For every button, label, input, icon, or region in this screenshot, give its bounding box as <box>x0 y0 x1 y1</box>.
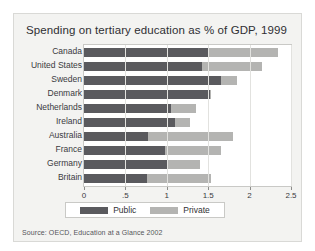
bar-row <box>84 160 200 169</box>
x-axis-tick-label: 2.5 <box>285 191 296 200</box>
bar-segment-private <box>168 160 199 169</box>
bar-segment-private <box>202 62 262 71</box>
x-axis-tick <box>250 187 251 190</box>
category-label: United States <box>18 61 82 70</box>
bar-row <box>84 62 262 71</box>
bar-segment-public <box>84 174 147 183</box>
x-axis-tick-label: 2 <box>247 191 251 200</box>
x-axis-tick-label: 0 <box>82 191 86 200</box>
gridline <box>291 45 292 186</box>
source-note: Source: OECD, Education at a Glance 2002 <box>22 229 163 236</box>
bar-row <box>84 174 211 183</box>
scan-clipped-header <box>0 0 315 11</box>
legend-swatch-public <box>80 207 108 214</box>
category-label: Canada <box>18 47 82 56</box>
x-axis-tick <box>125 187 126 190</box>
gridline <box>250 45 251 186</box>
legend-item-public: Public <box>80 205 136 215</box>
legend-label-public: Public <box>113 205 136 215</box>
bar-row <box>84 118 190 127</box>
legend-swatch-private <box>150 207 178 214</box>
category-label: Australia <box>18 131 82 140</box>
bar-segment-private <box>221 76 238 85</box>
bar-segment-public <box>84 104 171 113</box>
bar-segment-public <box>84 62 202 71</box>
x-axis-tick <box>291 187 292 190</box>
bar-segment-private <box>147 174 211 183</box>
bar-row <box>84 76 237 85</box>
chart-title: Spending on tertiary education as % of G… <box>26 24 287 36</box>
gridline <box>208 45 209 186</box>
category-axis: CanadaUnited StatesSwedenDenmarkNetherla… <box>14 44 82 187</box>
bar-segment-public <box>84 118 175 127</box>
category-label: Sweden <box>18 75 82 84</box>
bar-row <box>84 104 196 113</box>
bar-segment-private <box>208 48 278 57</box>
x-axis-tick-label: 1 <box>165 191 169 200</box>
category-label: Britain <box>18 173 82 182</box>
x-axis-tick <box>167 187 168 190</box>
bar-segment-private <box>175 118 190 127</box>
chart-figure: Spending on tertiary education as % of G… <box>13 13 302 242</box>
bar-segment-private <box>148 132 233 141</box>
bar-segment-public <box>84 48 208 57</box>
category-label: Denmark <box>18 89 82 98</box>
x-axis-tick <box>84 187 85 190</box>
bar-row <box>84 132 233 141</box>
category-label: Ireland <box>18 117 82 126</box>
x-axis-tick-label: .5 <box>122 191 129 200</box>
category-label: Germany <box>18 159 82 168</box>
plot-area <box>83 44 292 187</box>
bar-segment-private <box>171 104 196 113</box>
bar-segment-private <box>210 90 212 99</box>
bar-row <box>84 146 221 155</box>
gridline <box>125 45 126 186</box>
bar-segment-private <box>165 146 221 155</box>
category-label: Netherlands <box>18 103 82 112</box>
bar-segment-public <box>84 132 148 141</box>
category-label: France <box>18 145 82 154</box>
x-axis-tick-label: 1.5 <box>203 191 214 200</box>
bar-segment-public <box>84 76 221 85</box>
legend-label-private: Private <box>183 205 209 215</box>
legend-item-private: Private <box>150 205 209 215</box>
gridline <box>167 45 168 186</box>
bar-row <box>84 90 211 99</box>
x-axis: 0.511.522.5 <box>83 187 292 203</box>
bar-segment-public <box>84 90 210 99</box>
chart-legend: Public Private <box>65 202 225 218</box>
x-axis-tick <box>208 187 209 190</box>
bar-rows <box>84 45 291 186</box>
